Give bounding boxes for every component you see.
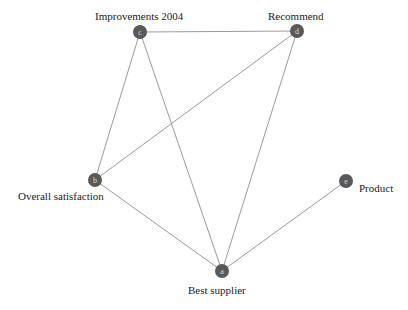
node-a-letter: a [220,267,224,276]
node-label-recommend: Recommend [268,10,324,23]
node-a[interactable]: a [215,264,229,278]
graph-svg: c d b e a [0,0,408,310]
node-label-overall-satisfaction: Overall satisfaction [18,190,104,203]
edge-c-d[interactable] [140,31,297,32]
edge-b-a[interactable] [95,180,222,271]
edge-a-e[interactable] [222,181,346,271]
node-label-improvements-2004: Improvements 2004 [95,10,183,23]
edge-d-a[interactable] [222,31,297,271]
node-b[interactable]: b [88,173,102,187]
edge-d-b[interactable] [95,31,297,180]
edge-c-b[interactable] [95,32,140,180]
node-c-letter: c [138,28,142,37]
network-diagram-canvas: c d b e a Improvements 2004 Recommend Ov… [0,0,408,310]
node-e-letter: e [344,177,348,186]
node-b-letter: b [93,176,97,185]
node-d[interactable]: d [290,24,304,38]
node-d-letter: d [295,27,299,36]
edge-group [95,31,346,271]
node-group: c d b e a [88,24,353,278]
node-c[interactable]: c [133,25,147,39]
node-label-product: Product [359,182,393,195]
node-e[interactable]: e [339,174,353,188]
edge-c-a[interactable] [140,32,222,271]
node-label-best-supplier: Best supplier [188,284,246,297]
